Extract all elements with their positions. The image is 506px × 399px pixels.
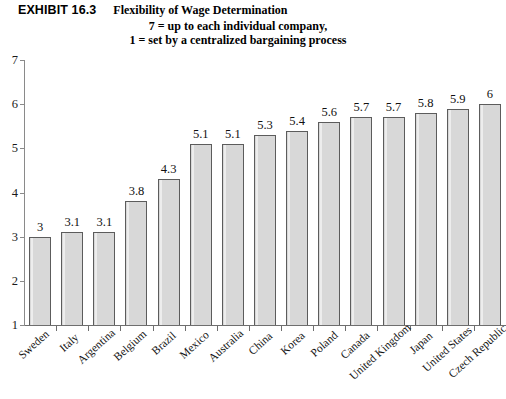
- x-axis-category-label: Italy: [57, 331, 81, 354]
- bar-value-label: 5.7: [386, 101, 402, 114]
- x-axis-tick-mark: [281, 325, 282, 331]
- y-axis-tick-mark: [20, 325, 25, 326]
- x-axis-tick-mark: [345, 325, 346, 331]
- bar-highlight: [31, 238, 33, 325]
- bar: [254, 135, 276, 325]
- bar-value-label: 5.1: [225, 128, 241, 141]
- bar-value-label: 6: [487, 88, 493, 101]
- bar-value-label: 3: [37, 221, 43, 234]
- bar: [190, 144, 212, 325]
- y-axis-tick-mark: [20, 237, 25, 238]
- x-axis-line: [24, 325, 506, 326]
- x-axis-tick-mark: [185, 325, 186, 331]
- bar-value-label: 5.8: [418, 97, 434, 110]
- bar-value-label: 3.1: [64, 216, 80, 229]
- bar: [350, 117, 372, 325]
- bar: [415, 113, 437, 325]
- x-axis-category-label: Argentina: [75, 326, 117, 366]
- x-axis-category-label: Belgium: [111, 328, 148, 363]
- bar: [158, 179, 180, 325]
- x-axis-tick-mark: [474, 325, 475, 331]
- y-axis-tick-label: 7: [12, 54, 18, 67]
- y-axis-tick-label: 5: [12, 142, 18, 155]
- exhibit-figure: EXHIBIT 16.3 Flexibility of Wage Determi…: [0, 0, 506, 399]
- bar: [383, 117, 405, 325]
- x-axis-category-label: Sweden: [16, 328, 51, 361]
- y-axis-tick-mark: [20, 104, 25, 105]
- bar: [318, 122, 340, 325]
- bar: [222, 144, 244, 325]
- x-axis-tick-mark: [249, 325, 250, 331]
- x-axis-category-label: China: [246, 330, 274, 357]
- bar: [286, 131, 308, 325]
- bar-highlight: [352, 118, 354, 325]
- bar: [93, 232, 115, 325]
- bar: [29, 237, 51, 325]
- y-axis-tick-label: 2: [12, 275, 18, 288]
- bar-value-label: 3.1: [97, 216, 113, 229]
- bar-highlight: [95, 233, 97, 325]
- bar-highlight: [320, 123, 322, 325]
- bar-highlight: [417, 114, 419, 325]
- bar-value-label: 5.4: [289, 115, 305, 128]
- x-axis-category-label: Korea: [278, 330, 307, 358]
- subtitle-line-2: 1 = set by a centralized bargaining proc…: [18, 33, 458, 48]
- bar-value-label: 4.3: [161, 163, 177, 176]
- bar: [479, 104, 501, 325]
- bar-value-label: 5.6: [321, 106, 337, 119]
- y-axis-tick-label: 1: [12, 319, 18, 332]
- bar-value-label: 3.8: [129, 185, 145, 198]
- bar-highlight: [127, 202, 129, 325]
- bar-value-label: 5.9: [450, 93, 466, 106]
- x-axis-category-label: Brazil: [149, 330, 178, 358]
- x-axis-tick-mark: [442, 325, 443, 331]
- x-axis-tick-mark: [56, 325, 57, 331]
- bar-value-label: 5.1: [193, 128, 209, 141]
- bar-highlight: [160, 180, 162, 325]
- x-axis-category-label: Australia: [206, 327, 245, 364]
- bar-value-label: 5.3: [257, 119, 273, 132]
- y-axis-tick-label: 6: [12, 98, 18, 111]
- chart-plot-area: 1234567 33.13.13.84.35.15.15.35.45.65.75…: [24, 60, 506, 325]
- bar-highlight: [192, 145, 194, 325]
- x-axis-category-label: Japan: [407, 330, 434, 356]
- bar: [61, 232, 83, 325]
- exhibit-title: Flexibility of Wage Determination: [113, 3, 287, 18]
- x-axis-tick-mark: [88, 325, 89, 331]
- subtitle-line-1: 7 = up to each individual company,: [18, 19, 458, 34]
- exhibit-number: EXHIBIT 16.3: [18, 3, 96, 17]
- bar-highlight: [288, 132, 290, 325]
- bar-highlight: [256, 136, 258, 325]
- bar-highlight: [63, 233, 65, 325]
- y-axis-tick-mark: [20, 148, 25, 149]
- bar-highlight: [449, 110, 451, 325]
- x-axis-tick-mark: [313, 325, 314, 331]
- bar: [447, 109, 469, 325]
- figure-title-row: EXHIBIT 16.3 Flexibility of Wage Determi…: [18, 3, 287, 18]
- y-axis-tick-mark: [20, 193, 25, 194]
- y-axis-tick-mark: [20, 281, 25, 282]
- x-axis-tick-mark: [120, 325, 121, 331]
- bar: [125, 201, 147, 325]
- y-axis-tick-label: 3: [12, 230, 18, 243]
- bar-highlight: [481, 105, 483, 325]
- x-axis-tick-mark: [217, 325, 218, 331]
- x-axis-tick-mark: [377, 325, 378, 331]
- bar-highlight: [385, 118, 387, 325]
- y-axis-tick-label: 4: [12, 186, 18, 199]
- x-axis-tick-mark: [153, 325, 154, 331]
- bar-value-label: 5.7: [354, 101, 370, 114]
- x-axis-category-label: Poland: [308, 329, 340, 359]
- y-axis-tick-mark: [20, 60, 25, 61]
- x-axis-category-label: Czech Republic: [446, 322, 506, 380]
- bar-highlight: [224, 145, 226, 325]
